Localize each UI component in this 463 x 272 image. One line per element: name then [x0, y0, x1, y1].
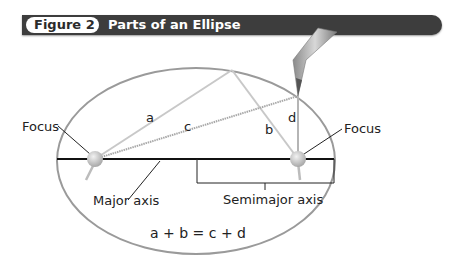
semimajor-axis-label: Semimajor axis: [223, 192, 323, 207]
focus-left-label: Focus: [22, 119, 59, 134]
focus-right-label: Focus: [344, 121, 381, 136]
focus-left-pin: [87, 151, 103, 167]
semimajor-axis-bracket: [197, 159, 334, 183]
string-a: [95, 70, 232, 159]
segment-b-label: b: [265, 122, 273, 137]
equation-label: a + b = c + d: [150, 226, 246, 241]
focus-right-leader: [304, 129, 342, 154]
segment-c-label: c: [184, 119, 191, 134]
pencil-icon: [293, 28, 337, 96]
segment-d-label: d: [288, 110, 296, 125]
focus-right-pin: [290, 151, 306, 167]
segment-a-label: a: [146, 110, 154, 125]
major-axis-label: Major axis: [93, 193, 159, 208]
focus-left-leader: [58, 126, 90, 154]
